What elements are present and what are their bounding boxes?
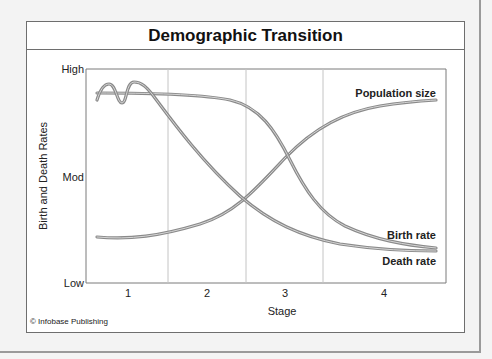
x-tick-2: 2: [204, 287, 210, 299]
curves: [97, 82, 436, 251]
death-rate-label: Death rate: [382, 255, 436, 267]
x-tick-1: 1: [125, 287, 131, 299]
copyright-credit: © Infobase Publishing: [30, 317, 108, 326]
y-tick-low: Low: [64, 277, 84, 289]
x-tick-3: 3: [282, 287, 288, 299]
death-rate-curve: [97, 82, 436, 251]
y-tick-mod: Mod: [63, 171, 84, 183]
birth-rate-label: Birth rate: [387, 229, 436, 241]
chart-svg: High Mod Low Birth and Death Rates 1 2 3…: [0, 0, 492, 359]
population-size-label: Population size: [355, 87, 436, 99]
x-tick-4: 4: [381, 287, 387, 299]
x-axis-title: Stage: [268, 305, 297, 317]
y-axis-title: Birth and Death Rates: [37, 121, 49, 230]
birth-rate-curve: [97, 93, 436, 248]
y-tick-high: High: [61, 63, 84, 75]
